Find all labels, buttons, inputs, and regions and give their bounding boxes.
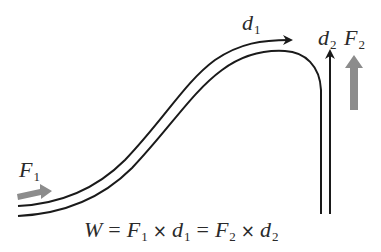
f1-force-arrow-icon	[17, 184, 52, 200]
formula-d1-sub: 1	[184, 229, 191, 244]
formula-equals-2: =	[196, 217, 208, 242]
f1-symbol: F	[19, 157, 32, 182]
f1-label: F1	[19, 159, 40, 183]
f1-subscript: 1	[33, 169, 40, 184]
formula-times-1: ×	[153, 221, 167, 241]
formula-d2-sub: 2	[272, 229, 279, 244]
formula-d2: d	[260, 217, 271, 242]
d1-subscript: 1	[254, 22, 261, 37]
d1-symbol: d	[242, 10, 253, 35]
d1-label: d1	[242, 12, 261, 36]
formula-f2-sub: 2	[229, 229, 236, 244]
f2-symbol: F	[344, 25, 357, 50]
d2-subscript: 2	[330, 37, 337, 52]
work-formula: W=F1×d1=F2×d2	[84, 219, 279, 243]
formula-times-2: ×	[241, 221, 255, 241]
f2-subscript: 2	[358, 37, 365, 52]
formula-f1-sub: 1	[141, 229, 148, 244]
d2-label: d2	[318, 27, 337, 51]
formula-f2: F	[215, 217, 228, 242]
f2-force-arrow-icon	[345, 55, 363, 110]
d2-symbol: d	[318, 25, 329, 50]
d1-distance-arrow	[18, 40, 290, 206]
f2-label: F2	[344, 27, 365, 51]
ramp-track	[18, 51, 321, 216]
formula-d1: d	[172, 217, 183, 242]
formula-w: W	[84, 217, 102, 242]
formula-f1: F	[127, 217, 140, 242]
formula-equals-1: =	[108, 217, 120, 242]
